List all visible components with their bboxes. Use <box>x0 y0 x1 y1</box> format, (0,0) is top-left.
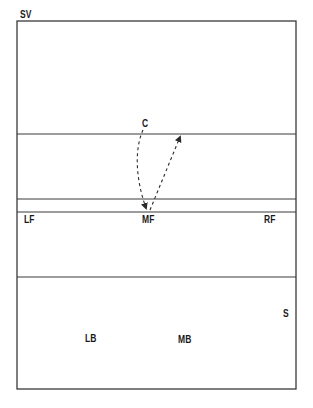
arrow-c-to-mf <box>137 130 146 208</box>
diagram-title-label: SV <box>20 10 32 20</box>
position-label-lf: LF <box>24 215 35 225</box>
position-label-rf: RF <box>264 215 276 225</box>
position-label-mf: MF <box>142 215 155 225</box>
position-label-mb: MB <box>178 335 192 345</box>
position-label-lb: LB <box>85 334 97 344</box>
position-label-s: S <box>283 309 289 319</box>
position-label-c: C <box>142 119 148 129</box>
court-boundary <box>17 21 296 389</box>
court-diagram <box>0 0 313 408</box>
